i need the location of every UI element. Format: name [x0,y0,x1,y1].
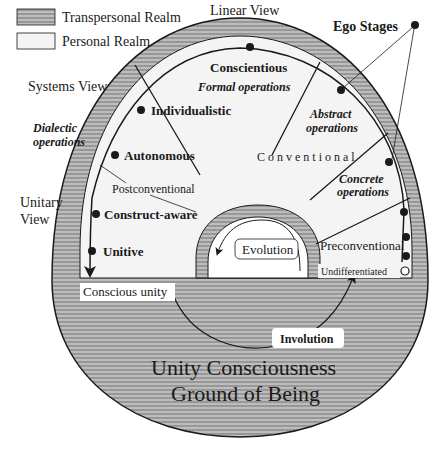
systems-view-label: Systems View [28,79,108,94]
stage-dot-pre1 [400,208,408,216]
stage-dot-concrete [385,158,393,166]
level-postconventional: Postconventional [112,182,195,196]
legend-swatch-personal [17,33,55,49]
process-evolution: Evolution [242,242,294,257]
stage-construct-aware: Construct-aware [104,207,198,222]
level-preconventional: Preconventional [320,238,405,253]
stage-conscientious: Conscientious [210,60,287,75]
stage-individualistic: Individualistic [151,103,231,118]
stage-dot-pre3 [402,252,410,260]
linear-view-label: Linear View [210,3,280,18]
ego-development-diagram: Transpersonal Realm Personal Realm Linea… [0,0,448,455]
operations-dialectic-1: Dialectic [32,121,78,135]
operations-formal: Formal operations [197,80,291,94]
ground-line-1: Unity Consciousness [151,355,336,380]
stage-dot-unitive [88,247,96,255]
stage-unitive: Unitive [103,244,144,259]
legend-label-personal: Personal Realm [62,34,150,49]
unitary-view-label-2: View [20,212,50,227]
unitary-view-label-1: Unitary [20,195,63,210]
ground-line-2: Ground of Being [171,381,320,406]
stage-dot-conscientious [246,43,254,51]
operations-concrete-1: Concrete [339,172,384,186]
operations-dialectic-2: operations [33,135,85,149]
operations-abstract-2: operations [306,121,358,135]
stage-dot-individualistic [137,106,145,114]
stage-dot-undifferentiated [401,267,409,275]
legend-label-transpersonal: Transpersonal Realm [62,10,181,25]
ego-stages-label: Ego Stages [333,19,399,34]
operations-concrete-2: operations [337,185,389,199]
stage-autonomous: Autonomous [124,148,195,163]
operations-abstract-1: Abstract [309,107,352,121]
stage-dot-construct-aware [92,210,100,218]
process-involution: Involution [280,332,334,346]
legend-swatch-transpersonal [17,9,55,25]
level-conventional: Conventional [257,150,358,164]
process-conscious-unity: Conscious unity [83,284,168,299]
ego-stages-pointer-1 [343,27,413,88]
stage-dot-autonomous [111,151,119,159]
stage-undifferentiated: Undifferentiated [321,266,387,277]
